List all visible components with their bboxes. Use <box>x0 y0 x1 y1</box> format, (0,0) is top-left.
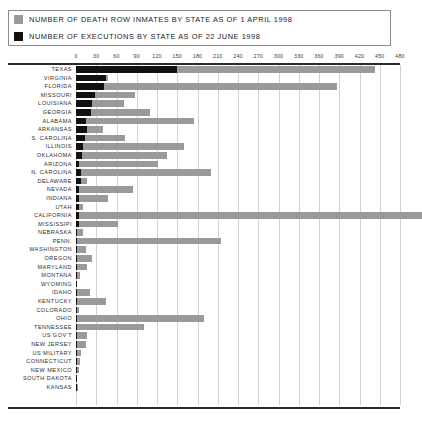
bar-group <box>76 185 400 194</box>
inmates-swatch <box>14 15 23 24</box>
executions-bar <box>76 315 77 322</box>
category-label-maryland: Maryland <box>8 263 76 272</box>
x-tick-420: 420 <box>355 53 364 59</box>
bar-chart: 0306090120150180210240270300330360390420… <box>8 53 400 413</box>
inmates-bar <box>76 341 86 348</box>
bar-group <box>76 323 400 332</box>
bar-row: Illinois <box>8 142 400 151</box>
bar-row: Virginia <box>8 74 400 83</box>
bar-group <box>76 280 400 289</box>
executions-bar <box>76 75 106 82</box>
bar-row: Delaware <box>8 177 400 186</box>
bar-row: Alabama <box>8 117 400 126</box>
x-tick-360: 360 <box>314 53 323 59</box>
category-label-colorado: Colorado <box>8 306 76 315</box>
bar-group <box>76 366 400 375</box>
category-label-penn: Penn. <box>8 237 76 246</box>
category-label-us-military: US Military <box>8 349 76 358</box>
bar-row: N. Carolina <box>8 168 400 177</box>
executions-bar <box>76 255 77 262</box>
bar-row: Indiana <box>8 194 400 203</box>
executions-bar <box>76 178 81 185</box>
bar-row: Kentucky <box>8 297 400 306</box>
inmates-bar <box>76 246 86 253</box>
bar-group <box>76 271 400 280</box>
bar-group <box>76 357 400 366</box>
executions-bar <box>76 135 85 142</box>
category-label-idaho: Idaho <box>8 288 76 297</box>
x-tick-270: 270 <box>254 53 263 59</box>
executions-bar <box>76 264 77 271</box>
inmates-bar <box>76 289 90 296</box>
category-label-arkansas: Arkansas <box>8 125 76 134</box>
executions-bar <box>76 100 92 107</box>
bar-row: New Mexico <box>8 366 400 375</box>
executions-bar <box>76 384 77 391</box>
category-label-indiana: Indiana <box>8 194 76 203</box>
bar-row: Maryland <box>8 263 400 272</box>
bar-group <box>76 349 400 358</box>
bar-group <box>76 99 400 108</box>
bar-row: Montana <box>8 271 400 280</box>
gridline-480 <box>400 65 401 405</box>
bar-group <box>76 263 400 272</box>
executions-bar <box>76 161 79 168</box>
bar-group <box>76 220 400 229</box>
category-label-arizona: Arizona <box>8 160 76 169</box>
category-label-oklahoma: Oklahoma <box>8 151 76 160</box>
legend-item-inmates: Number of Death Row inmates by State as … <box>9 11 390 28</box>
category-label-tennessee: Tennessee <box>8 323 76 332</box>
executions-swatch <box>14 32 23 41</box>
bar-row: Mississipi <box>8 220 400 229</box>
bar-group <box>76 151 400 160</box>
executions-bar <box>76 341 77 348</box>
executions-bar <box>76 307 77 314</box>
bar-group <box>76 117 400 126</box>
executions-bar <box>76 169 81 176</box>
bar-row: Arizona <box>8 160 400 169</box>
bar-row: Florida <box>8 82 400 91</box>
inmates-bar <box>76 324 144 331</box>
category-label-mississipi: Mississipi <box>8 220 76 229</box>
inmates-bar <box>76 332 87 339</box>
category-label-new-jersey: New Jersey <box>8 340 76 349</box>
bar-row: Missouri <box>8 91 400 100</box>
category-label-oregon: Oregon <box>8 254 76 263</box>
bar-group <box>76 237 400 246</box>
inmates-bar <box>76 83 337 90</box>
bar-row: Nevada <box>8 185 400 194</box>
bar-row: Oregon <box>8 254 400 263</box>
bar-group <box>76 125 400 134</box>
executions-bar <box>76 186 79 193</box>
x-tick-210: 210 <box>213 53 222 59</box>
bar-group <box>76 91 400 100</box>
executions-bar <box>76 246 77 253</box>
x-tick-30: 30 <box>93 53 99 59</box>
bar-group <box>76 228 400 237</box>
category-label-georgia: Georgia <box>8 108 76 117</box>
bar-group <box>76 254 400 263</box>
category-label-ohio: Ohio <box>8 314 76 323</box>
x-tick-240: 240 <box>233 53 242 59</box>
category-label-virginia: Virginia <box>8 74 76 83</box>
executions-bar <box>76 298 77 305</box>
category-label-nevada: Nevada <box>8 185 76 194</box>
legend-label-executions: Number of Executions by State as of 22 J… <box>29 32 260 41</box>
category-label-florida: Florida <box>8 82 76 91</box>
inmates-bar <box>76 298 106 305</box>
bar-row: S. Carolina <box>8 134 400 143</box>
inmates-bar <box>76 161 158 168</box>
category-label-connecticut: Connecticut <box>8 357 76 366</box>
bar-group <box>76 245 400 254</box>
executions-bar <box>76 375 77 382</box>
executions-bar <box>76 324 77 331</box>
bar-group <box>76 108 400 117</box>
inmates-bar <box>76 169 211 176</box>
category-label-n-carolina: N. Carolina <box>8 168 76 177</box>
executions-bar <box>76 332 77 339</box>
chart-legend: Number of Death Row inmates by State as … <box>8 10 391 46</box>
bar-group <box>76 297 400 306</box>
executions-bar <box>76 126 87 133</box>
bar-row: Georgia <box>8 108 400 117</box>
x-tick-0: 0 <box>74 53 77 59</box>
